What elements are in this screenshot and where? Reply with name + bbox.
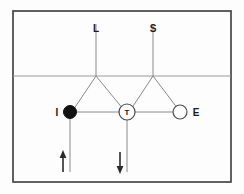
node-i[interactable] xyxy=(64,106,77,119)
edge-l-to-t xyxy=(96,76,122,107)
figure-container: L S I T E xyxy=(0,0,244,194)
arrow-middle xyxy=(117,152,124,174)
label-s: S xyxy=(150,23,157,34)
label-l: L xyxy=(93,23,99,34)
label-t: T xyxy=(125,108,130,117)
edge-l-to-i xyxy=(75,76,97,108)
arrow-left xyxy=(60,150,67,172)
label-i: I xyxy=(56,107,59,118)
edge-s-to-e xyxy=(153,76,177,107)
network-diagram: L S I T E xyxy=(0,0,244,194)
node-e[interactable] xyxy=(173,105,187,119)
label-e: E xyxy=(193,107,200,118)
diagram-frame xyxy=(13,11,231,182)
edge-s-to-t xyxy=(133,76,154,107)
